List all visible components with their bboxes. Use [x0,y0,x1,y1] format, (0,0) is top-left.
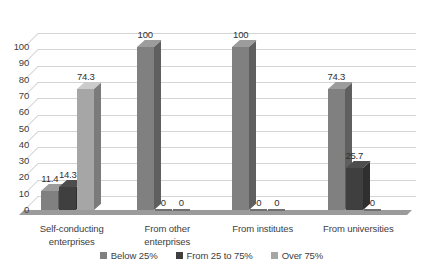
legend-label: From 25 to 75% [187,250,253,261]
floor-surface [19,210,412,215]
legend-item[interactable]: Over 75% [271,250,323,261]
data-label: 74.3 [320,71,353,82]
bar-zero-marker [155,209,172,211]
data-label: 14.3 [51,169,84,180]
data-label: 0 [165,197,198,208]
bar-front-face [41,191,58,210]
bar [77,89,94,210]
bar-zero-marker [250,209,267,211]
y-tick-label: 70 [3,90,29,101]
data-label: 0 [260,197,293,208]
bar-zero-marker [268,209,285,211]
category-label-line: enterprises [112,236,224,249]
category-label: From universities [303,223,415,236]
data-label: 100 [129,29,162,40]
y-tick-label: 10 [3,188,29,199]
y-tick-label: 90 [3,57,29,68]
bar-front-face [137,47,154,210]
y-tick-label: 40 [3,139,29,150]
y-tick-label: 20 [3,171,29,182]
y-tick-label: 80 [3,74,29,85]
bar-side-face [94,83,101,210]
y-tick-label: 60 [3,106,29,117]
data-label: 25.7 [338,150,371,161]
bar-front-face [59,187,76,210]
chart-legend: Below 25%From 25 to 75%Over 75% [0,250,423,261]
bar-zero-marker [173,209,190,211]
bar [59,187,76,210]
y-tick-label: 50 [3,123,29,134]
y-tick-label: 100 [3,41,29,52]
y-tick-label: 0 [3,204,29,215]
y-tick-label: 30 [3,155,29,166]
legend-swatch-icon [271,252,278,259]
chart-container: 1009080706050403020100 11.414.374.310000… [0,0,423,271]
data-label: 100 [224,29,257,40]
category-label-line: From universities [303,223,415,236]
legend-label: Over 75% [282,250,323,261]
bar [41,191,58,210]
bar-front-face [77,89,94,210]
legend-item[interactable]: From 25 to 75% [176,250,253,261]
legend-item[interactable]: Below 25% [100,250,158,261]
legend-swatch-icon [100,252,107,259]
bar [232,47,249,210]
bar [137,47,154,210]
bar-side-face [249,41,256,210]
gridline [38,66,416,67]
data-label: 0 [356,197,389,208]
data-label: 74.3 [69,71,102,82]
bar-side-face [154,41,161,210]
bar-zero-marker [364,209,381,211]
bar-front-face [232,47,249,210]
gridline [38,49,416,50]
legend-label: Below 25% [111,250,158,261]
legend-swatch-icon [176,252,183,259]
